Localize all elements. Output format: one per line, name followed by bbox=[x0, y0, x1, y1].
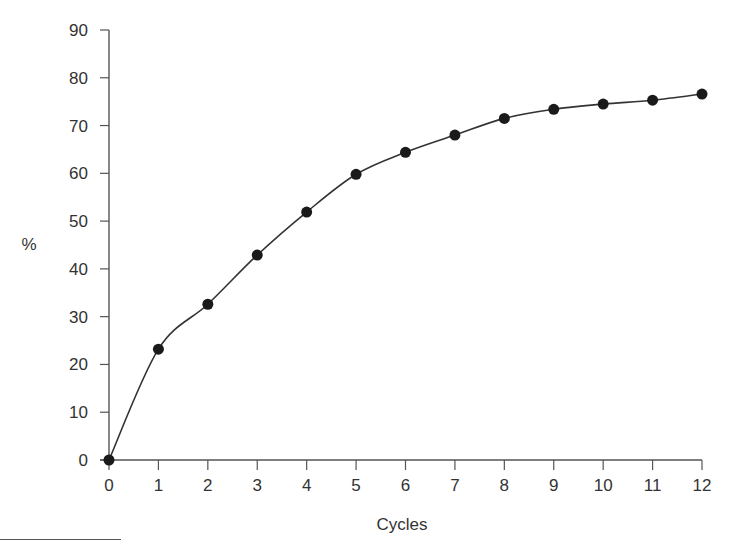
x-tick-label: 1 bbox=[154, 476, 163, 495]
x-tick-label: 2 bbox=[203, 476, 212, 495]
y-tick-label: 30 bbox=[69, 308, 88, 327]
x-tick-label: 4 bbox=[302, 476, 311, 495]
data-point-marker bbox=[104, 455, 115, 466]
y-tick-label: 70 bbox=[69, 117, 88, 136]
x-tick-label: 6 bbox=[401, 476, 410, 495]
x-tick-label: 3 bbox=[253, 476, 262, 495]
data-point-marker bbox=[548, 104, 559, 115]
x-tick-label: 0 bbox=[104, 476, 113, 495]
y-tick-label: 10 bbox=[69, 403, 88, 422]
data-point-marker bbox=[647, 95, 658, 106]
x-axis-label: Cycles bbox=[376, 515, 427, 534]
x-tick-label: 11 bbox=[644, 476, 662, 495]
data-point-marker bbox=[351, 169, 362, 180]
y-tick-label: 60 bbox=[69, 164, 88, 183]
x-axis: 0123456789101112 bbox=[100, 460, 711, 495]
y-tick-label: 40 bbox=[69, 260, 88, 279]
x-tick-label: 5 bbox=[351, 476, 360, 495]
x-tick-label: 8 bbox=[500, 476, 509, 495]
y-axis: 0102030405060708090 bbox=[69, 21, 109, 470]
data-point-marker bbox=[697, 89, 708, 100]
line-chart: 0102030405060708090 0123456789101112 % C… bbox=[0, 0, 729, 549]
data-point-marker bbox=[449, 130, 460, 141]
y-tick-label: 90 bbox=[69, 21, 88, 40]
y-axis-label: % bbox=[21, 235, 36, 254]
y-tick-label: 20 bbox=[69, 355, 88, 374]
y-tick-label: 50 bbox=[69, 212, 88, 231]
x-tick-label: 9 bbox=[549, 476, 558, 495]
y-tick-label: 0 bbox=[79, 451, 88, 470]
data-point-marker bbox=[301, 207, 312, 218]
data-point-marker bbox=[499, 113, 510, 124]
series-markers bbox=[104, 89, 708, 466]
data-point-marker bbox=[598, 99, 609, 110]
x-tick-label: 7 bbox=[450, 476, 459, 495]
data-point-marker bbox=[252, 250, 263, 261]
footnote-rule bbox=[0, 539, 121, 540]
y-tick-label: 80 bbox=[69, 69, 88, 88]
data-point-marker bbox=[202, 299, 213, 310]
data-point-marker bbox=[153, 344, 164, 355]
x-tick-label: 10 bbox=[594, 476, 613, 495]
x-tick-label: 12 bbox=[693, 476, 712, 495]
data-point-marker bbox=[400, 147, 411, 158]
